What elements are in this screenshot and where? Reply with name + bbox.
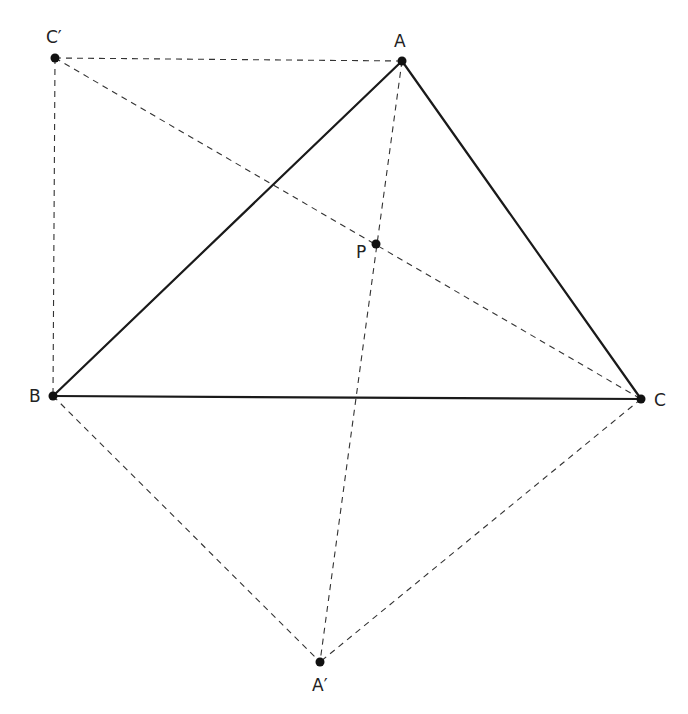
- side-c-a: [402, 61, 641, 399]
- point-a: [398, 57, 407, 66]
- dashed-segment-cp-a: [55, 58, 402, 61]
- points: [49, 54, 646, 667]
- side-b-c: [53, 396, 641, 399]
- side-a-b: [53, 61, 402, 396]
- label-a-prime: A′: [312, 675, 328, 695]
- point-c: [637, 395, 646, 404]
- dashed-construction-lines: [53, 58, 641, 662]
- dashed-segment-c-ap: [320, 399, 641, 662]
- point-cp: [51, 54, 60, 63]
- dashed-segment-cp-b: [53, 58, 55, 396]
- label-a: A: [394, 31, 406, 51]
- dashed-segment-cp-c: [55, 58, 641, 399]
- point-p: [372, 240, 381, 249]
- geometry-diagram: A B C P C′ A′: [0, 0, 688, 714]
- point-b: [49, 392, 58, 401]
- point-ap: [316, 658, 325, 667]
- dashed-segment-a-ap: [320, 61, 402, 662]
- label-p: P: [356, 242, 366, 262]
- label-c-prime: C′: [46, 27, 62, 47]
- point-labels: A B C P C′ A′: [29, 27, 666, 695]
- dashed-segment-b-ap: [53, 396, 320, 662]
- label-b: B: [29, 386, 41, 406]
- label-c: C: [654, 390, 666, 410]
